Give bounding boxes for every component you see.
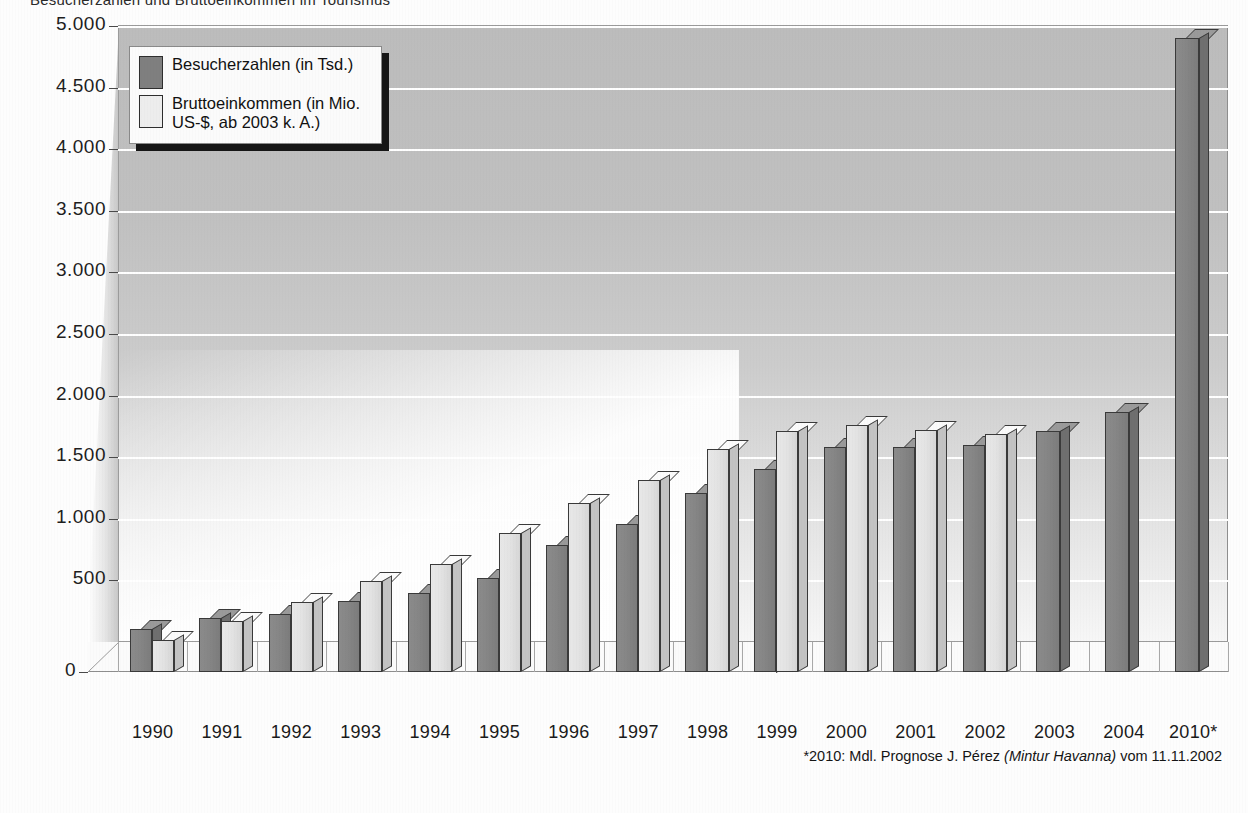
y-axis-tick-mark [109, 457, 118, 458]
bar-front-face [291, 602, 313, 672]
bar-group [257, 671, 326, 672]
bar-front-face [915, 430, 937, 672]
bar-front-face [685, 493, 707, 672]
bar-side-face [937, 424, 947, 672]
bar-front-face [707, 449, 729, 672]
legend-item-brutto: Bruttoeinkommen (in Mio.US-$, ab 2003 k.… [139, 94, 372, 132]
bar-besucher-1991 [199, 618, 221, 672]
y-axis-tick-mark [109, 26, 118, 27]
bar-side-face [382, 575, 392, 672]
y-axis-tick-mark [109, 519, 118, 520]
bar-front-face [963, 445, 985, 672]
bar-front-face [776, 431, 798, 672]
bar-front-face [269, 614, 291, 672]
bar-group [1159, 671, 1228, 672]
bar-side-face [660, 474, 670, 672]
bar-front-face [152, 640, 174, 672]
y-axis-tick-label: 3.500 [26, 198, 106, 220]
bar-front-face [546, 545, 568, 672]
bar-side-face [1129, 406, 1139, 672]
bar-group [1020, 671, 1089, 672]
bar-group [118, 671, 187, 672]
bar-brutto-1996 [568, 503, 590, 672]
bar-side-face [1060, 425, 1070, 672]
bar-brutto-1994 [430, 564, 452, 672]
bar-besucher-1996 [546, 545, 568, 672]
y-axis-tick-mark [109, 88, 118, 89]
legend-label-brutto: Bruttoeinkommen (in Mio.US-$, ab 2003 k.… [172, 94, 360, 132]
bar-brutto-2002 [985, 434, 1007, 672]
bar-front-face [499, 533, 521, 672]
chart-title-cropped: Besucherzahlen und Bruttoeinkommen im To… [0, 0, 1248, 5]
bar-brutto-1990 [152, 640, 174, 672]
bar-front-face [754, 469, 776, 673]
bar-side-face [868, 419, 878, 672]
footnote-lead: *2010: Mdl. Prognose J. Pérez [803, 748, 1004, 764]
bar-besucher-1995 [477, 578, 499, 672]
bar-front-face [824, 447, 846, 672]
bar-front-face [893, 447, 915, 672]
bar-front-face [1175, 38, 1199, 672]
footnote-tail: vom 11.11.2002 [1116, 748, 1222, 764]
legend-item-besucher: Besucherzahlen (in Tsd.) [139, 55, 372, 89]
y-axis-tick-label: 3.000 [26, 259, 106, 281]
x-axis-separator [1228, 642, 1229, 672]
bar-brutto-2000 [846, 425, 868, 672]
bar-brutto-1997 [638, 480, 660, 672]
chart-legend: Besucherzahlen (in Tsd.) Bruttoeinkommen… [129, 46, 382, 144]
bar-besucher-2003 [1036, 431, 1060, 672]
bar-front-face [338, 601, 360, 672]
bar-besucher-2002 [963, 445, 985, 672]
bar-front-face [985, 434, 1007, 672]
y-axis-tick-label: 4.500 [26, 75, 106, 97]
bar-brutto-1992 [291, 602, 313, 672]
bar-besucher-1999 [754, 469, 776, 673]
bar-brutto-1999 [776, 431, 798, 672]
y-axis-tick-mark [109, 580, 118, 581]
bar-group [396, 671, 465, 672]
y-axis-tick-label: 1.500 [26, 444, 106, 466]
legend-label-besucher: Besucherzahlen (in Tsd.) [172, 55, 353, 74]
bar-front-face [1105, 412, 1129, 672]
bar-brutto-1991 [221, 621, 243, 672]
bar-front-face [221, 621, 243, 672]
bar-group [812, 671, 881, 672]
bar-side-face [313, 596, 323, 672]
y-axis-tick-label: 1.000 [26, 506, 106, 528]
y-axis-tick-label: 2.000 [26, 383, 106, 405]
bar-besucher-1994 [408, 593, 430, 672]
bar-side-face [521, 527, 531, 672]
y-axis-tick-label: 0 [0, 659, 76, 681]
footnote-italic: (Mintur Havanna) [1004, 748, 1116, 764]
bar-front-face [638, 480, 660, 672]
y-axis-tick-mark [109, 334, 118, 335]
bar-group [951, 671, 1020, 672]
bar-group [326, 671, 395, 672]
y-axis-tick-mark [109, 149, 118, 150]
bar-group [534, 671, 603, 672]
bar-besucher-1990 [130, 629, 152, 672]
bar-group [604, 671, 673, 672]
x-axis-label-2010*: 2010* [1148, 722, 1238, 743]
bar-brutto-1993 [360, 581, 382, 672]
bar-group [673, 671, 742, 672]
bar-front-face [408, 593, 430, 672]
bar-front-face [199, 618, 221, 672]
bar-brutto-2001 [915, 430, 937, 672]
bar-group [187, 671, 256, 672]
bar-brutto-1998 [707, 449, 729, 672]
y-axis-tick-label: 5.000 [26, 13, 106, 35]
y-axis-tick-label: 2.500 [26, 321, 106, 343]
y-axis-tick-mark [109, 272, 118, 273]
bar-side-face [590, 498, 600, 672]
bar-group [742, 671, 811, 672]
bar-side-face [1199, 32, 1209, 672]
chart-footnote: *2010: Mdl. Prognose J. Pérez (Mintur Ha… [0, 748, 1222, 764]
y-axis-tick-label: 4.000 [26, 136, 106, 158]
bar-side-face [243, 616, 253, 672]
bar-besucher-2010* [1175, 38, 1199, 672]
y-axis-tick-mark [109, 211, 118, 212]
bar-front-face [568, 503, 590, 672]
bar-group [465, 671, 534, 672]
legend-swatch-besucher-icon [139, 56, 163, 89]
